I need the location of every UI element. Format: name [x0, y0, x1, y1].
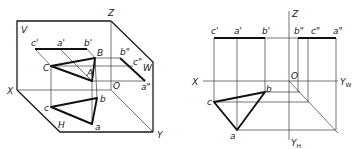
label-z-axis: Z: [107, 8, 115, 18]
label-a-double-prime-right: a": [333, 26, 343, 36]
label-c-right: c: [207, 97, 212, 107]
label-c-prime: c': [31, 38, 38, 48]
label-w-plane: W: [143, 63, 153, 73]
label-a-right: a: [230, 131, 236, 141]
y-axis-line: [111, 90, 153, 132]
label-y-axis: Y: [157, 130, 164, 140]
right-orthographic-figure: Z X O YW YH c' a' b' b" c" a" b c a: [191, 9, 352, 149]
label-b-prime: b': [84, 38, 92, 48]
projection-diagram: V Z X O Y H W c' a' b' B C A b" c" a" c …: [0, 0, 355, 149]
label-yh-axis: YH: [291, 138, 301, 149]
proj-line-b: [87, 49, 95, 58]
label-a: a: [95, 122, 101, 132]
label-c-prime-right: c': [211, 26, 218, 36]
label-h-plane: H: [58, 120, 65, 130]
label-a-double-prime: a": [141, 82, 151, 92]
label-x-axis: X: [6, 86, 14, 96]
top-view-triangle: [214, 92, 265, 130]
label-a-prime: a': [57, 38, 65, 48]
label-v-plane: V: [21, 25, 28, 35]
label-z-axis-right: Z: [291, 9, 299, 19]
label-b-double-prime-right: b": [294, 26, 304, 36]
left-isometric-figure: V Z X O Y H W c' a' b' B C A b" c" a" c …: [6, 8, 164, 140]
w-plane-frame: [111, 21, 153, 132]
label-b-right: b: [266, 84, 272, 94]
label-C: C: [43, 63, 50, 73]
label-origin-right: O: [291, 71, 298, 81]
label-b: b: [100, 94, 106, 104]
label-B: B: [97, 48, 103, 58]
label-b-double-prime: b": [120, 47, 130, 57]
label-c-double-prime-right: c": [311, 26, 320, 36]
h-plane-frame: [17, 90, 153, 132]
label-A: A: [86, 68, 93, 78]
proj-line-b-down: [95, 58, 97, 98]
label-b-prime-right: b': [262, 26, 270, 36]
miter-line: [289, 81, 338, 133]
label-c: c: [44, 103, 49, 113]
label-yw-axis: YW: [340, 77, 352, 88]
label-x-axis-right: X: [191, 77, 199, 87]
label-c-double-prime: c": [133, 57, 142, 67]
label-a-prime-right: a': [234, 26, 242, 36]
label-origin: O: [113, 81, 120, 91]
